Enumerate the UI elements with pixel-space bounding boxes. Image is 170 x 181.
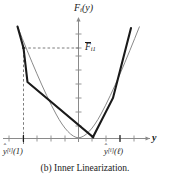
figure-caption: (b) Inner Linearization.: [0, 163, 170, 173]
value-label-base: F: [85, 42, 91, 52]
value-label-sub: i1: [91, 45, 96, 52]
x-axis-title: y: [152, 133, 156, 143]
breakpoint-right-arg: (ℓ): [114, 146, 123, 156]
breakpoint-label-right: ˆy[i](ℓ): [104, 147, 123, 156]
overbar-icon: [85, 42, 91, 43]
value-label-overbar-group: F: [85, 43, 91, 53]
inner-linearization-polyline: [18, 27, 132, 138]
breakpoint-label-left: ˆy[i](1): [3, 147, 23, 156]
y-axis-title-arg: (y): [82, 2, 93, 13]
value-label-fi1: Fi1: [85, 43, 96, 53]
hat-icon: ˆ: [4, 145, 6, 152]
hat-icon: ˆ: [105, 145, 107, 152]
breakpoint-left-hat-group: ˆy: [3, 147, 7, 156]
breakpoint-right-hat-group: ˆy: [104, 147, 108, 156]
y-axis-title: Fi(y): [74, 3, 93, 14]
inner-linearization-figure: Fi(y) Fi1 y ˆy[i](1) ˆy[i](ℓ) (b) Inner …: [0, 0, 170, 181]
breakpoint-markers: [22, 47, 94, 139]
plot-canvas: [0, 0, 170, 181]
breakpoint-left-arg: (1): [13, 146, 23, 156]
